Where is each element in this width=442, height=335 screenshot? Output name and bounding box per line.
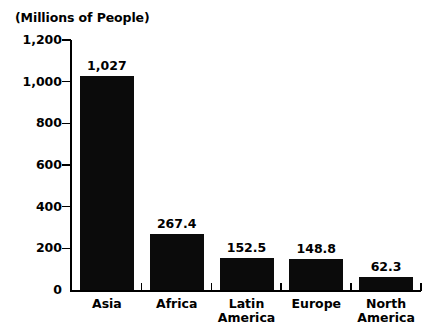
bar-value-label: 267.4	[132, 218, 222, 231]
y-axis-tick-label: 1,000	[22, 75, 62, 88]
bar	[289, 259, 343, 290]
chart-axis-title: (Millions of People)	[15, 10, 150, 25]
bar	[80, 76, 134, 290]
bar-chart: (Millions of People) 02004006008001,0001…	[0, 0, 442, 335]
y-axis-tick-label: 1,200	[22, 34, 62, 47]
y-axis-tick-label: 800	[36, 117, 62, 130]
x-axis-tick-mark	[280, 283, 282, 291]
x-axis-line	[70, 290, 421, 292]
bar	[359, 277, 413, 290]
x-axis-tick-mark	[420, 283, 422, 291]
bar	[220, 258, 274, 290]
x-axis-tick-mark	[350, 283, 352, 291]
y-axis-line	[70, 40, 72, 292]
x-axis-tick-mark	[141, 283, 143, 291]
y-axis-tick-label: 400	[36, 200, 62, 213]
bar-value-label: 62.3	[341, 261, 431, 274]
bar-value-label: 148.8	[271, 243, 361, 256]
x-axis-tick-mark	[211, 283, 213, 291]
y-axis-tick-label: 0	[53, 284, 62, 297]
y-axis-tick-label: 200	[36, 242, 62, 255]
y-axis-tick-label: 600	[36, 159, 62, 172]
bar-value-label: 1,027	[62, 60, 152, 73]
bar	[150, 234, 204, 290]
category-label: North America	[341, 297, 431, 326]
